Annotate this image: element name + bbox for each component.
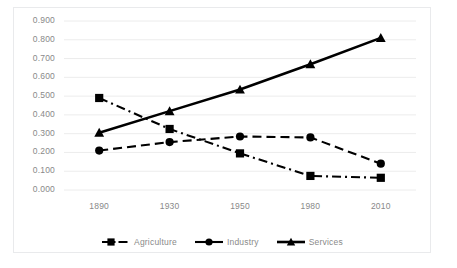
y-tick-label: 0.300: [14, 128, 55, 138]
legend-label: Services: [309, 237, 343, 247]
legend-label: Industry: [227, 237, 259, 247]
legend-item-services[interactable]: Services: [276, 236, 343, 248]
circle-marker-icon: [194, 236, 224, 248]
data-point-industry-2010: [377, 160, 385, 168]
data-point-agriculture-1930: [166, 125, 174, 133]
x-tick-label-2010: 2010: [346, 201, 416, 211]
x-tick-label-1890: 1890: [64, 201, 134, 211]
y-tick-label: 0.500: [14, 90, 55, 100]
y-tick-label: 0.200: [14, 146, 55, 156]
chart-canvas: [14, 8, 430, 252]
chart-legend: AgricultureIndustryServices: [14, 236, 430, 248]
y-tick-label: 0.600: [14, 71, 55, 81]
data-point-industry-1980: [306, 133, 314, 141]
y-tick-label: 0.000: [14, 184, 55, 194]
data-point-industry-1890: [95, 146, 103, 154]
x-tick-label-1980: 1980: [275, 201, 345, 211]
triangle-marker-icon: [276, 236, 306, 248]
line-chart: 0.9000.8000.7000.6000.5000.4000.3000.200…: [0, 0, 457, 268]
y-tick-label: 0.100: [14, 165, 55, 175]
x-tick-label-1930: 1930: [134, 201, 204, 211]
data-point-agriculture-2010: [377, 174, 385, 182]
y-tick-label: 0.800: [14, 34, 55, 44]
data-point-services-2010: [376, 33, 386, 42]
data-point-agriculture-1980: [306, 172, 314, 180]
legend-item-agriculture[interactable]: Agriculture: [101, 236, 177, 248]
data-point-industry-1950: [236, 132, 244, 140]
chart-plot-frame: 0.9000.8000.7000.6000.5000.4000.3000.200…: [13, 7, 431, 253]
legend-item-industry[interactable]: Industry: [194, 236, 259, 248]
y-tick-label: 0.900: [14, 15, 55, 25]
square-marker-icon: [101, 236, 131, 248]
y-tick-label: 0.400: [14, 109, 55, 119]
data-point-industry-1930: [166, 138, 174, 146]
data-point-agriculture-1950: [236, 149, 244, 157]
x-tick-label-1950: 1950: [205, 201, 275, 211]
data-point-agriculture-1890: [95, 94, 103, 102]
y-tick-label: 0.700: [14, 53, 55, 63]
legend-label: Agriculture: [134, 237, 177, 247]
